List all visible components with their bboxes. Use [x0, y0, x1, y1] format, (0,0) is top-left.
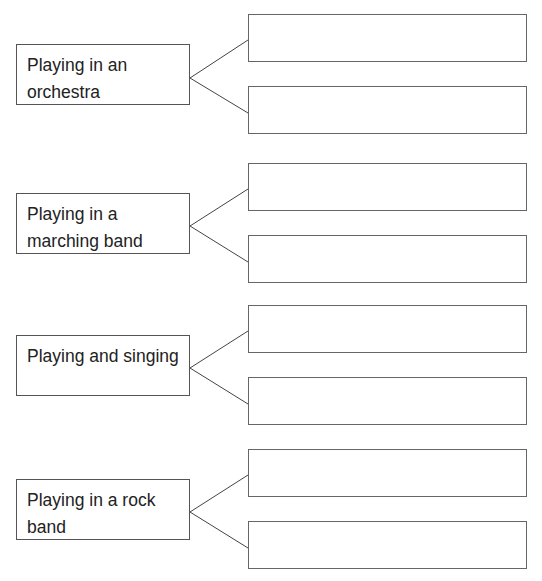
answer-box-marching-band-2[interactable] — [248, 235, 527, 283]
label-text: Playing in an orchestra — [27, 55, 127, 102]
answer-box-marching-band-1[interactable] — [248, 163, 527, 211]
answer-box-rock-band-2[interactable] — [248, 521, 527, 569]
label-text: Playing and singing — [27, 346, 179, 366]
label-box-orchestra: Playing in an orchestra — [16, 44, 190, 105]
answer-box-rock-band-1[interactable] — [248, 449, 527, 497]
answer-box-orchestra-1[interactable] — [248, 14, 527, 62]
answer-box-orchestra-2[interactable] — [248, 86, 527, 134]
label-box-marching-band: Playing in a marching band — [16, 193, 190, 254]
answer-box-playing-singing-1[interactable] — [248, 305, 527, 353]
label-text: Playing in a rock band — [27, 490, 155, 537]
label-box-rock-band: Playing in a rock band — [16, 479, 190, 540]
label-box-playing-singing: Playing and singing — [16, 335, 190, 396]
answer-box-playing-singing-2[interactable] — [248, 377, 527, 425]
label-text: Playing in a marching band — [27, 204, 143, 251]
